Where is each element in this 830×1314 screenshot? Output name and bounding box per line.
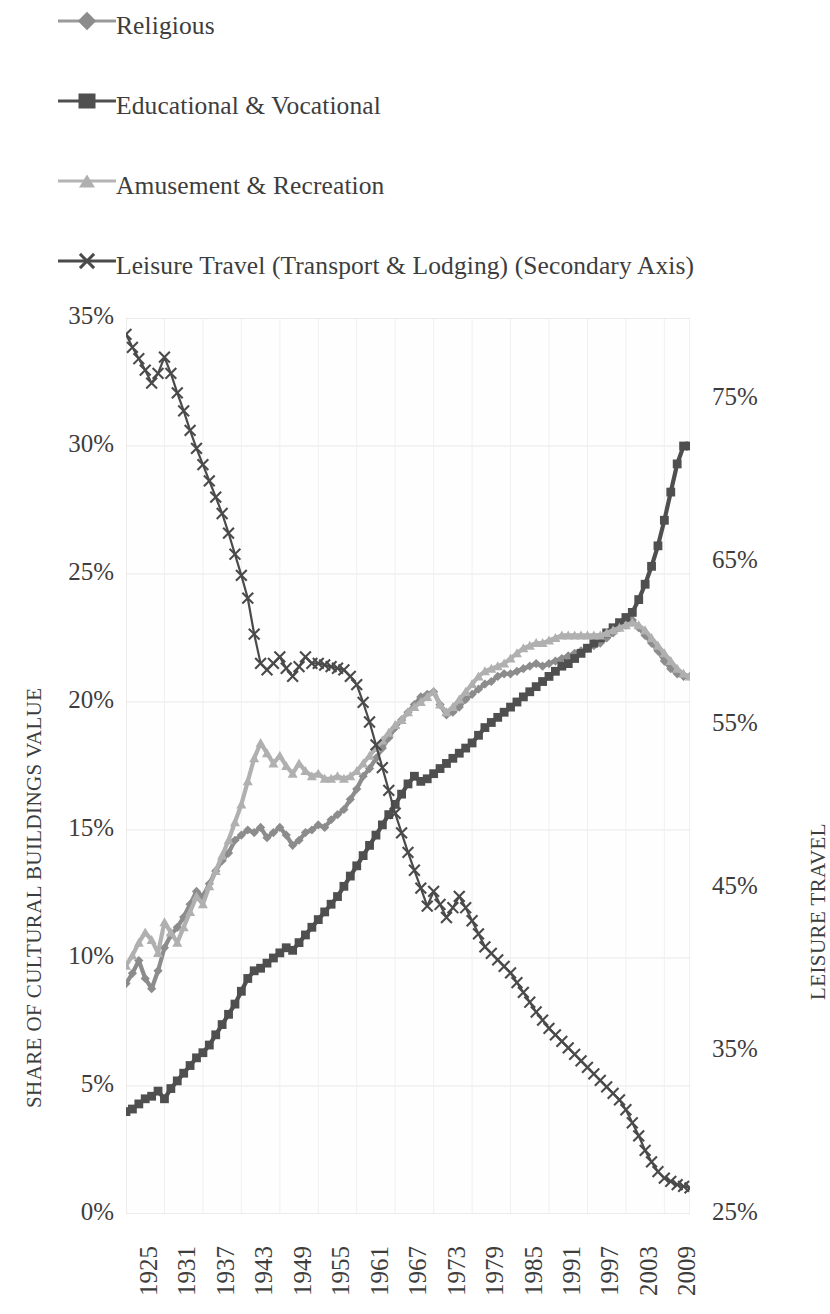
y-axis-left-tick: 25% bbox=[68, 558, 114, 586]
y-axis-right-tick: 55% bbox=[712, 709, 758, 737]
legend-item-amusement[interactable]: Amusement & Recreation bbox=[58, 166, 384, 206]
legend-label-amusement: Amusement & Recreation bbox=[116, 166, 384, 206]
legend-item-educational[interactable]: Educational & Vocational bbox=[58, 86, 381, 126]
y-axis-right-title: LEISURE TRAVEL bbox=[806, 823, 830, 1000]
legend-item-leisure-travel[interactable]: Leisure Travel (Transport & Lodging) (Se… bbox=[58, 246, 778, 286]
chart-svg bbox=[126, 318, 690, 1214]
y-axis-right-tick: 65% bbox=[712, 546, 758, 574]
square-marker-icon bbox=[58, 90, 116, 112]
y-axis-left-title: SHARE OF CULTURAL BUILDINGS VALUE bbox=[22, 688, 47, 1108]
y-axis-left-tick: 30% bbox=[68, 430, 114, 458]
x-axis-tick: 2003 bbox=[635, 1246, 663, 1296]
x-axis-tick: 1949 bbox=[289, 1246, 317, 1296]
x-axis-tick: 1997 bbox=[596, 1246, 624, 1296]
y-axis-left-tick: 15% bbox=[68, 814, 114, 842]
y-axis-right-tick: 45% bbox=[712, 872, 758, 900]
x-axis-tick: 1973 bbox=[443, 1246, 471, 1296]
legend-item-religious[interactable]: Religious bbox=[58, 6, 215, 46]
triangle-marker-icon bbox=[58, 170, 116, 192]
chart-plot-area bbox=[126, 318, 690, 1214]
x-axis-tick: 1985 bbox=[520, 1246, 548, 1296]
x-axis-tick: 1967 bbox=[404, 1246, 432, 1296]
x-axis-tick: 1937 bbox=[212, 1246, 240, 1296]
diamond-marker-icon bbox=[58, 10, 116, 32]
x-axis-tick: 1925 bbox=[135, 1246, 163, 1296]
x-axis-tick: 1991 bbox=[558, 1246, 586, 1296]
x-axis-tick: 1979 bbox=[481, 1246, 509, 1296]
x-axis-tick: 1943 bbox=[250, 1246, 278, 1296]
x-axis-tick: 1955 bbox=[327, 1246, 355, 1296]
x-axis-tick: 1931 bbox=[173, 1246, 201, 1296]
y-axis-left-tick: 0% bbox=[81, 1198, 114, 1226]
y-axis-right-tick: 25% bbox=[712, 1198, 758, 1226]
legend-label-leisure-travel: Leisure Travel (Transport & Lodging) (Se… bbox=[116, 246, 694, 286]
y-axis-right-tick: 35% bbox=[712, 1035, 758, 1063]
y-axis-left-tick: 10% bbox=[68, 942, 114, 970]
legend-label-religious: Religious bbox=[116, 6, 215, 46]
y-axis-left-tick: 35% bbox=[68, 302, 114, 330]
legend-label-educational: Educational & Vocational bbox=[116, 86, 381, 126]
x-axis-tick: 1961 bbox=[366, 1246, 394, 1296]
x-axis-tick: 2009 bbox=[673, 1246, 701, 1296]
y-axis-left-tick: 20% bbox=[68, 686, 114, 714]
x-marker-icon bbox=[58, 250, 116, 272]
y-axis-left-tick: 5% bbox=[81, 1070, 114, 1098]
y-axis-right-tick: 75% bbox=[712, 383, 758, 411]
